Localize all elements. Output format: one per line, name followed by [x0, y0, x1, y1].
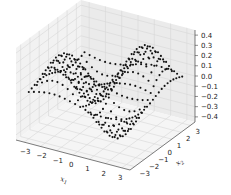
- x2-tick-label: 0: [168, 149, 172, 157]
- z-tick-label: −0.3: [201, 103, 218, 111]
- x1-tick-label: 3: [118, 174, 122, 182]
- x1-tick-label: −2: [36, 152, 46, 160]
- x2-tick-label: 1: [177, 142, 181, 150]
- z-tick-label: −0.2: [201, 93, 218, 101]
- x1-tick-label: −3: [20, 148, 30, 156]
- z-tick-label: 0.4: [201, 32, 213, 40]
- x2-tick-label: 3: [195, 128, 199, 136]
- x2-axis-label: x2: [174, 157, 185, 168]
- x1-tick-label: 0: [69, 161, 73, 169]
- x1-tick-label: −1: [53, 157, 63, 165]
- z-tick-label: −0.1: [201, 83, 218, 91]
- x1-tick-label: 2: [102, 170, 106, 178]
- z-axis-ticks: −0.4−0.3−0.2−0.10.00.10.20.30.4: [195, 32, 219, 122]
- z-tick-label: 0.3: [201, 42, 212, 50]
- x2-tick-label: −1: [158, 156, 168, 164]
- x2-tick-label: −3: [140, 170, 150, 178]
- z-tick-label: 0.0: [201, 73, 212, 81]
- x2-tick-label: 2: [186, 135, 190, 143]
- z-tick-label: 0.1: [201, 62, 212, 70]
- z-tick-label: 0.2: [201, 52, 212, 60]
- z-tick-label: −0.4: [201, 113, 219, 121]
- x1-axis-label: x1: [59, 175, 68, 185]
- x1-tick-label: 1: [85, 165, 89, 173]
- 3d-scatter-plot: −3−2−10123 −3−2−10123 −0.4−0.3−0.2−0.10.…: [0, 0, 231, 195]
